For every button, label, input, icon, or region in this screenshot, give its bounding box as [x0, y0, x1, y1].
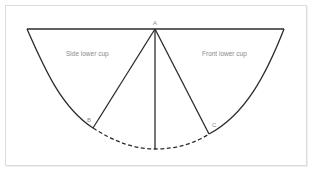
dashed-hem-curve	[93, 128, 209, 149]
side-lower-cup-label: Side lower cup	[66, 50, 109, 58]
front-lower-cup-label: Front lower cup	[202, 50, 247, 58]
point-c-label: C	[212, 122, 217, 128]
front-cup-outer-curve	[209, 29, 284, 134]
line-a-to-b	[93, 29, 155, 128]
side-cup-outer-curve	[27, 29, 93, 128]
point-b-label: B	[87, 117, 91, 123]
lower-cup-diagram: A B C Side lower cup Front lower cup	[0, 0, 315, 173]
point-a-label: A	[153, 20, 157, 26]
line-a-to-c	[155, 29, 209, 134]
